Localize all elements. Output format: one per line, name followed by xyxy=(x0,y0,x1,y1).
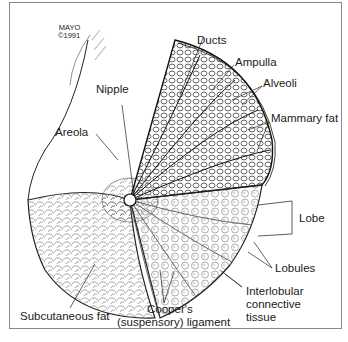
label-nipple: Nipple xyxy=(96,83,129,96)
label-mammary-fat: Mammary fat xyxy=(271,112,338,125)
label-coopers-1: Cooper's xyxy=(147,303,193,316)
label-alveoli: Alveoli xyxy=(263,77,297,90)
label-subcutaneous-fat: Subcutaneous fat xyxy=(20,310,110,323)
label-ampulla: Ampulla xyxy=(235,56,277,69)
label-interlobular-1: Interlobular xyxy=(246,285,304,298)
label-interlobular-2: connective xyxy=(246,298,301,311)
credit-line-2: ©1991 xyxy=(58,32,80,40)
lobules-region xyxy=(130,185,262,318)
chest-outline xyxy=(28,30,106,200)
label-ducts: Ducts xyxy=(197,34,226,47)
label-lobules: Lobules xyxy=(275,262,315,275)
label-lobe: Lobe xyxy=(299,212,325,225)
label-interlobular-3: tissue xyxy=(246,311,276,324)
lobe-box xyxy=(258,201,292,236)
label-areola: Areola xyxy=(55,126,88,139)
copyright-credit: MAYO ©1991 xyxy=(58,24,80,40)
label-coopers-2: (suspensory) ligament xyxy=(117,316,230,329)
